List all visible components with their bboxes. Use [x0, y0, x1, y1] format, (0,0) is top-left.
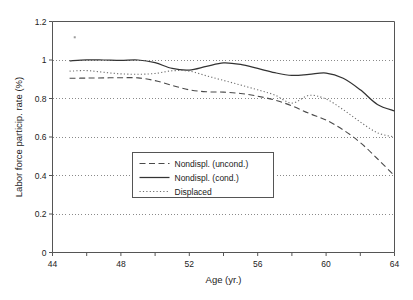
y-axis-title: Labor force particip. rate (%) [13, 77, 24, 197]
legend-label: Nondispl. (uncond.) [175, 159, 249, 169]
x-tick-label: 48 [116, 259, 126, 269]
y-tick-label: 0 [42, 248, 47, 258]
x-axis-title: Age (yr.) [206, 274, 242, 285]
x-tick-label: 56 [253, 259, 263, 269]
x-tick-label: 64 [390, 259, 400, 269]
y-tick-label: 0.6 [35, 132, 47, 142]
chart-legend[interactable]: Nondispl. (uncond.)Nondispl. (cond.)Disp… [133, 153, 274, 198]
chart-background [0, 0, 413, 300]
y-tick-label: 1 [42, 55, 47, 65]
y-tick-label: 0.8 [35, 94, 47, 104]
x-tick-label: 44 [48, 259, 58, 269]
y-tick-label: 0.4 [35, 171, 47, 181]
annotations-group [74, 36, 76, 38]
chart-container: 00.20.40.60.811.2 444852566064 Labor for… [0, 0, 413, 300]
x-tick-label: 52 [185, 259, 195, 269]
y-tick-label: 0.2 [35, 209, 47, 219]
y-tick-label: 1.2 [35, 17, 47, 27]
legend-label: Displaced [175, 187, 213, 197]
legend-label: Nondispl. (cond.) [175, 173, 239, 183]
stray-marker [74, 36, 76, 38]
x-tick-label: 60 [321, 259, 331, 269]
line-chart: 00.20.40.60.811.2 444852566064 Labor for… [0, 0, 413, 300]
